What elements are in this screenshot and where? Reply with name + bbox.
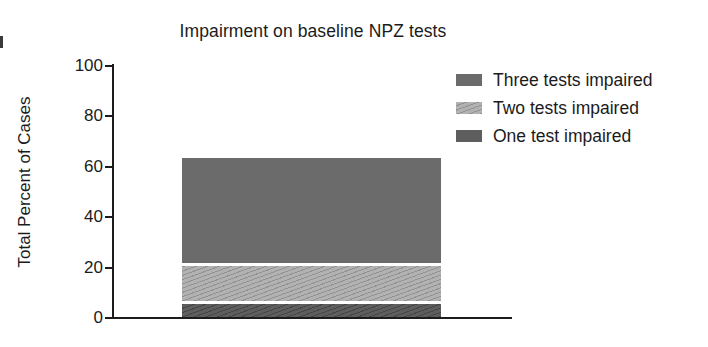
y-axis-label: Total Percent of Cases bbox=[15, 71, 35, 293]
x-axis-line bbox=[112, 317, 512, 319]
legend-item-three-tests-impaired: Three tests impaired bbox=[456, 66, 706, 94]
legend-item-one-test-impaired: One test impaired bbox=[456, 122, 706, 150]
page-edge-mark bbox=[0, 36, 3, 48]
y-tick-label: 20 bbox=[84, 258, 103, 275]
legend-label-two-tests-impaired: Two tests impaired bbox=[493, 99, 639, 118]
legend: Three tests impaired Two tests impaired … bbox=[456, 66, 706, 150]
y-tick-label: 60 bbox=[84, 157, 103, 174]
y-tick-mark bbox=[105, 216, 112, 218]
y-axis-label-container: Total Percent of Cases bbox=[0, 60, 46, 310]
y-tick-label: 80 bbox=[84, 107, 103, 124]
y-tick-label: 0 bbox=[94, 309, 103, 326]
legend-swatch-icon-three bbox=[456, 74, 482, 86]
bar-segment-one-test-impaired bbox=[182, 304, 441, 318]
y-tick-label: 100 bbox=[75, 57, 103, 74]
chart-figure: Impairment on baseline NPZ tests Total P… bbox=[0, 0, 708, 347]
y-tick-mark bbox=[105, 115, 112, 117]
legend-item-two-tests-impaired: Two tests impaired bbox=[456, 94, 706, 122]
y-tick-mark bbox=[105, 267, 112, 269]
legend-swatch-icon-two bbox=[456, 102, 482, 114]
legend-swatch-icon-one bbox=[456, 130, 482, 142]
y-tick-label: 40 bbox=[84, 208, 103, 225]
stacked-bar bbox=[182, 156, 441, 317]
chart-title: Impairment on baseline NPZ tests bbox=[148, 21, 478, 41]
bar-segment-two-tests-impaired bbox=[182, 263, 441, 303]
bar-segment-three-tests-impaired bbox=[182, 156, 441, 263]
legend-label-one-test-impaired: One test impaired bbox=[493, 127, 631, 146]
y-tick-mark bbox=[105, 166, 112, 168]
legend-label-three-tests-impaired: Three tests impaired bbox=[493, 71, 653, 90]
y-tick-mark bbox=[105, 65, 112, 67]
plot-area: 100 80 60 40 20 0 bbox=[112, 64, 512, 319]
y-tick-mark bbox=[105, 317, 112, 319]
y-axis-line bbox=[112, 64, 114, 319]
